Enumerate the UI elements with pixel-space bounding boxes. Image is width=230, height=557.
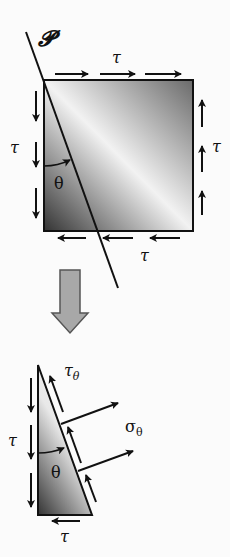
theta-label-bottom: θ <box>51 463 61 482</box>
tau-bottom-lower-label: τ <box>60 527 70 546</box>
stress-element-square <box>44 80 193 231</box>
transition-arrow-icon <box>52 270 88 333</box>
plane-label: 𝓟 <box>38 25 61 51</box>
tau-bottom-label: τ <box>140 246 150 265</box>
tau-top-label: τ <box>112 48 122 67</box>
stress-element-wedge <box>38 365 92 515</box>
tau-right-label: τ <box>212 137 222 156</box>
tau-left-lower-label: τ <box>8 431 18 450</box>
tau-left-label: τ <box>10 138 20 157</box>
stress-transformation-diagram: 𝓟 τ τ τ τ θ τθ σθ τ θ τ <box>0 0 230 557</box>
sigma-theta-label: σθ <box>125 417 143 439</box>
tau-theta-label: τθ <box>64 361 80 383</box>
theta-label-top: θ <box>54 174 64 193</box>
